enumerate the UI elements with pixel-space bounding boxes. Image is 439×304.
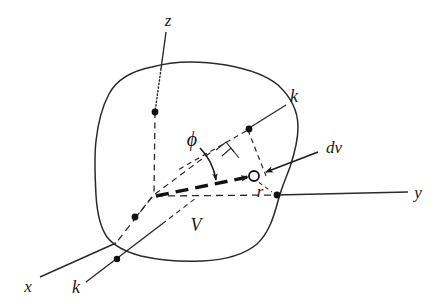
phi-arc-arrow — [200, 148, 216, 180]
label-k-lower: k — [72, 277, 81, 297]
k-line-lower-segment — [86, 224, 162, 282]
x-axis-solid-outer-segment — [40, 243, 116, 277]
physics-diagram-svg: z y x k k ϕ dv r V — [0, 0, 439, 304]
label-k-upper: k — [290, 86, 299, 106]
phi-angle-group — [200, 148, 216, 180]
z-axis-group — [152, 32, 166, 196]
dv-open-circle — [249, 171, 259, 181]
label-r: r — [257, 182, 264, 201]
k-line-upper-leader — [246, 105, 286, 130]
label-axis-z: z — [164, 11, 172, 30]
z-axis-lower-dashed-segment — [154, 112, 155, 196]
x-axis-group — [40, 197, 152, 277]
y-axis-solid-outer-segment — [276, 192, 408, 195]
k-line-upper-dashed-to-dv — [248, 130, 266, 176]
label-volume-v: V — [191, 215, 204, 235]
r-vector-arrow — [156, 177, 248, 196]
y-axis-boundary-dot — [274, 192, 281, 199]
label-axis-x: x — [23, 277, 32, 296]
right-angle-marker-inner — [222, 148, 239, 158]
k-line-upper-point-dot — [246, 126, 253, 133]
dv-element-group — [249, 171, 259, 181]
right-angle-marker-group — [216, 142, 239, 158]
label-phi: ϕ — [187, 128, 197, 151]
figure-root: z y x k k ϕ dv r V — [0, 0, 439, 304]
k-line-lower-boundary-dot — [114, 256, 120, 262]
x-axis-upper-solid-segment — [136, 197, 152, 217]
r-vector-group — [156, 177, 248, 196]
label-dv: dv — [326, 138, 343, 157]
dv-leader-group — [266, 152, 318, 172]
dv-leader-line — [266, 152, 318, 172]
z-axis-inner-dotted-segment — [155, 69, 161, 112]
z-axis-point-dot — [152, 109, 159, 116]
x-axis-boundary-dot — [132, 214, 139, 221]
label-axis-y: y — [412, 183, 422, 202]
y-axis-group — [156, 192, 408, 199]
